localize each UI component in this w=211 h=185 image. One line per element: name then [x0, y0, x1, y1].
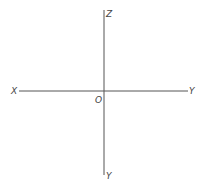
label-z-top: Z — [106, 10, 112, 19]
axes-drawing — [0, 0, 211, 185]
label-origin: O — [95, 96, 102, 105]
label-x-left: X — [11, 87, 17, 96]
label-y-right: Y — [189, 87, 195, 96]
label-y-bottom: Y — [106, 172, 112, 181]
